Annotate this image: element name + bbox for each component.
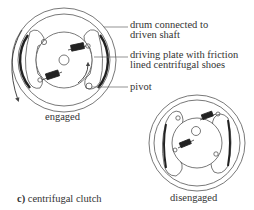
caption-text: centrifugal clutch — [28, 193, 102, 204]
label-driving-plate: driving plate with friction lined centri… — [130, 50, 238, 70]
figure-caption: c) centrifugal clutch — [17, 193, 102, 204]
label-drum: drum connected to driven shaft — [130, 20, 208, 40]
state-label-engaged: engaged — [45, 112, 80, 122]
caption-prefix: c) — [17, 193, 25, 204]
disengaged-clutch — [149, 95, 245, 191]
state-label-disengaged: disengaged — [170, 193, 217, 203]
engaged-clutch — [12, 8, 116, 112]
centrifugal-clutch-diagram — [0, 0, 254, 210]
label-plate-line2: lined centrifugal shoes — [130, 60, 238, 70]
label-pivot: pivot — [130, 82, 152, 92]
driving-plate — [36, 32, 92, 88]
label-drum-line2: driven shaft — [130, 30, 208, 40]
label-pivot-line1: pivot — [130, 82, 152, 92]
